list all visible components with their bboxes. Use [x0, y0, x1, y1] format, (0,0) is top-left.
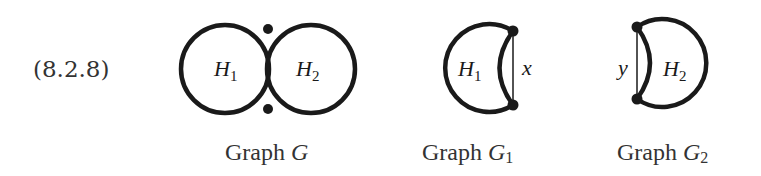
caption-graph-g1: Graph G1 — [422, 139, 513, 167]
caption-graph-g2: Graph G2 — [617, 139, 708, 167]
region-h1-label: H1 — [457, 56, 481, 84]
vertex-bottom — [632, 94, 643, 105]
h2-inner-arc — [637, 27, 650, 99]
vertex-top — [632, 22, 643, 33]
region-h1-label: H1 — [213, 56, 237, 84]
edge-x-label: x — [521, 55, 532, 80]
caption-graph-g: Graph G — [225, 139, 308, 167]
graph-g1 — [445, 24, 518, 112]
vertex-top — [508, 26, 519, 37]
h1-inner-arc — [500, 31, 514, 105]
graph-g — [181, 24, 355, 114]
vertex-bottom — [263, 104, 273, 114]
edge-y-label: y — [616, 55, 628, 80]
region-h2-label: H2 — [295, 56, 319, 84]
region-h2-label: H2 — [662, 56, 686, 84]
vertex-bottom — [508, 100, 519, 111]
vertex-top — [263, 24, 273, 34]
